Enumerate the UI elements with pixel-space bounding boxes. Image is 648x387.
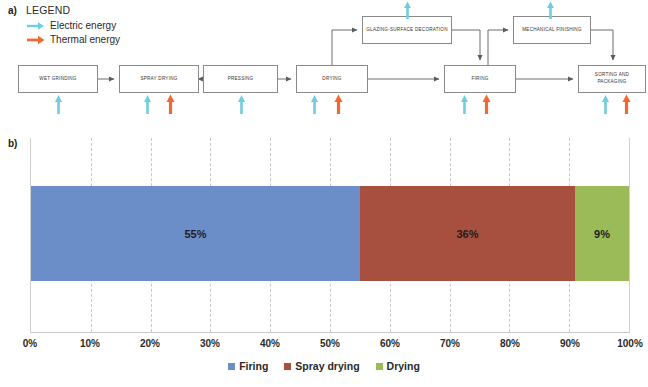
x-axis-tick-label: 0%: [23, 338, 37, 349]
process-box-sorting-and-packaging[interactable]: SORTING AND PACKAGING: [578, 65, 646, 93]
legend-item-firing[interactable]: Firing: [228, 360, 268, 372]
panel-b-tag: b): [8, 138, 17, 149]
thermal-energy-arrow-icon: [334, 93, 343, 115]
bar-segment-drying: 9%: [575, 186, 629, 281]
chart-legend: FiringSpray dryingDrying: [0, 360, 648, 372]
thermal-energy-arrow-icon: [622, 93, 631, 115]
process-box-drying[interactable]: DRYING: [296, 65, 368, 93]
x-axis-tick-label: 10%: [80, 338, 100, 349]
electric-energy-arrow-icon: [237, 93, 246, 115]
chart-plot-area: 55%36%9%: [30, 138, 630, 333]
bar-segment-firing: 55%: [31, 186, 360, 281]
process-box-spray-drying[interactable]: SPRAY DRYING: [119, 65, 199, 93]
process-box-mechanical-finishing[interactable]: MECHANICAL FINISHING: [513, 16, 591, 44]
process-box-pressing[interactable]: PRESSING: [203, 65, 278, 93]
bar-segment-spray-drying: 36%: [360, 186, 575, 281]
legend-swatch: [376, 363, 383, 370]
x-axis-tick-label: 40%: [260, 338, 280, 349]
legend-item-drying[interactable]: Drying: [376, 360, 420, 372]
x-axis-tick-labels: 0%10%20%30%40%50%60%70%80%90%100%: [30, 338, 630, 354]
legend-label: Drying: [387, 360, 420, 372]
legend-label: Firing: [239, 360, 268, 372]
x-axis-tick-label: 70%: [440, 338, 460, 349]
x-axis-tick-label: 50%: [320, 338, 340, 349]
x-axis-tick-label: 60%: [380, 338, 400, 349]
bar-segment-value-label: 36%: [457, 228, 479, 240]
x-axis-tick-label: 20%: [140, 338, 160, 349]
x-axis-tick-label: 80%: [500, 338, 520, 349]
process-box-glazing-surface-decoration[interactable]: GLAZING-SURFACE DECORATION: [362, 16, 452, 44]
electric-energy-arrow-icon: [403, 0, 412, 20]
x-axis-tick-label: 90%: [560, 338, 580, 349]
legend-item-spray-drying[interactable]: Spray drying: [284, 360, 359, 372]
bar-segment-value-label: 9%: [594, 228, 610, 240]
bar-segment-value-label: 55%: [184, 228, 206, 240]
electric-energy-arrow-icon: [310, 93, 319, 115]
stacked-bar: 55%36%9%: [31, 186, 629, 281]
panel-b-energy-share-chart: b) 55%36%9% 0%10%20%30%40%50%60%70%80%90…: [0, 128, 648, 387]
panel-a-process-diagram: a) LEGEND Electric energy Thermal energy: [0, 0, 648, 125]
process-box-wet-grinding[interactable]: WET GRINDING: [18, 65, 98, 93]
legend-swatch: [284, 363, 291, 370]
x-axis-tick-label: 100%: [617, 338, 643, 349]
electric-energy-arrow-icon: [460, 93, 469, 115]
process-box-firing[interactable]: FIRING: [444, 65, 516, 93]
electric-energy-arrow-icon: [546, 0, 555, 20]
thermal-energy-arrow-icon: [482, 93, 491, 115]
legend-label: Spray drying: [295, 360, 359, 372]
electric-energy-arrow-icon: [54, 93, 63, 115]
legend-swatch: [228, 363, 235, 370]
electric-energy-arrow-icon: [143, 93, 152, 115]
thermal-energy-arrow-icon: [166, 93, 175, 115]
x-axis-tick-label: 30%: [200, 338, 220, 349]
electric-energy-arrow-icon: [601, 93, 610, 115]
